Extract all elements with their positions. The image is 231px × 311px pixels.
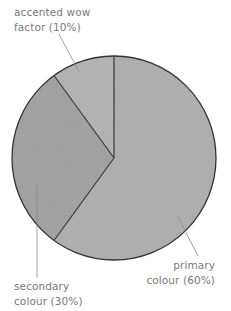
label-primary: primary colour (60%) [146, 258, 215, 288]
label-accent-line1: accented wow [14, 5, 90, 20]
label-secondary-line1: secondary [14, 279, 83, 294]
label-secondary: secondary colour (30%) [14, 279, 83, 309]
label-accent-line2: factor (10%) [14, 20, 90, 35]
label-primary-line2: colour (60%) [146, 273, 215, 288]
label-accent: accented wow factor (10%) [14, 5, 90, 35]
label-secondary-line2: colour (30%) [14, 294, 83, 309]
label-primary-line1: primary [146, 258, 215, 273]
